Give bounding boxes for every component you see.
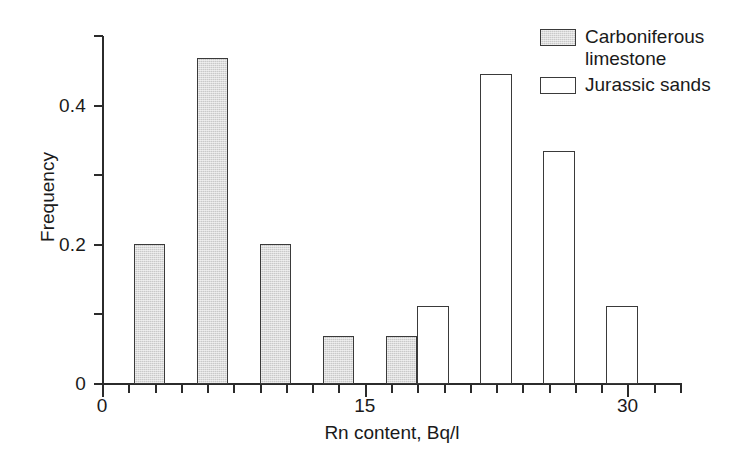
chart-figure: Frequency 00.20.4 01530 Rn content, Bq/l… [0,0,750,453]
chart-legend: CarboniferouslimestoneJurassic sands [540,26,750,100]
bar-jurassic-sands-3 [606,306,638,384]
x-axis-tick [260,384,262,393]
x-tick-label-0: 0 [72,395,132,417]
x-axis-tick [654,384,656,393]
x-axis-tick [470,384,472,393]
bar-carboniferous-limestone-0 [134,244,166,384]
legend-item-carboniferous-limestone[interactable]: Carboniferouslimestone [540,26,750,70]
bar-carboniferous-limestone-3 [323,336,355,384]
x-axis-tick [575,384,577,393]
legend-item-jurassic-sands[interactable]: Jurassic sands [540,74,750,96]
x-axis-tick [391,384,393,393]
x-axis-tick [496,384,498,393]
bar-jurassic-sands-1 [480,74,512,384]
bar-carboniferous-limestone-2 [260,244,292,384]
x-axis-tick [286,384,288,393]
legend-swatch-gray [540,29,576,46]
x-axis-tick [444,384,446,393]
y-tick-label-0.4: 0.4 [18,96,86,115]
x-axis-tick [312,384,314,393]
x-axis-title: Rn content, Bq/l [102,422,682,444]
x-tick-label-15: 15 [335,395,395,417]
x-axis-tick [522,384,524,393]
y-tick-label-0: 0 [18,374,86,393]
x-axis-tick [680,384,682,393]
legend-label: Carboniferouslimestone [585,26,704,70]
x-axis-tick [417,384,419,393]
x-axis-tick [207,384,209,393]
bar-carboniferous-limestone-1 [197,58,229,384]
x-axis-tick [233,384,235,393]
legend-swatch-white [540,77,576,94]
bar-jurassic-sands-0 [417,306,449,384]
x-axis-tick [181,384,183,393]
x-axis-tick [549,384,551,393]
x-axis-tick [601,384,603,393]
x-axis-tick [128,384,130,393]
x-axis-tick [155,384,157,393]
x-tick-label-30: 30 [597,395,657,417]
x-axis-tick [338,384,340,393]
y-tick-label-0.2: 0.2 [18,235,86,254]
bar-carboniferous-limestone-4 [386,336,418,384]
bar-jurassic-sands-2 [543,151,575,384]
legend-label: Jurassic sands [585,74,711,96]
